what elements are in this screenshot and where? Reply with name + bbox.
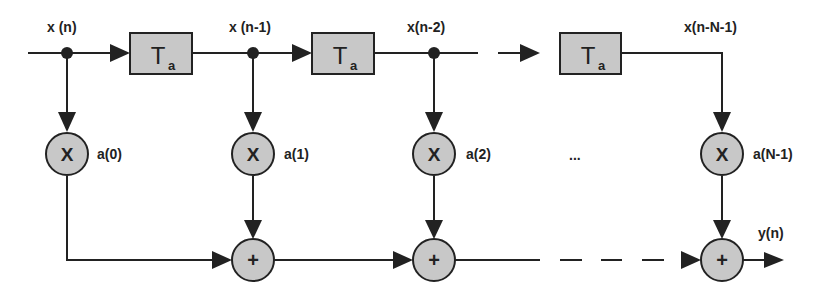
coefficient-label: a(2) <box>466 146 491 162</box>
arrow-icon <box>393 251 413 269</box>
arrow-icon <box>520 44 540 62</box>
svg-text:+: + <box>716 249 728 271</box>
svg-text:a: a <box>350 58 358 73</box>
svg-text:X: X <box>247 144 260 165</box>
svg-text:X: X <box>716 144 729 165</box>
svg-text:a: a <box>598 58 606 73</box>
arrow-icon <box>713 220 731 239</box>
multiplier-node: X <box>413 133 455 175</box>
arrow-icon <box>681 251 701 269</box>
arrow-icon <box>110 44 130 62</box>
arrow-icon <box>244 220 262 239</box>
tap-label: x(n-N-1) <box>684 19 737 35</box>
svg-text:T: T <box>151 42 166 69</box>
delay-block: T a <box>312 33 374 74</box>
multiplier-node: X <box>46 133 88 175</box>
svg-text:+: + <box>247 249 259 271</box>
arrow-icon <box>425 112 443 132</box>
ellipsis: ... <box>569 147 581 163</box>
junction-dot <box>247 47 259 59</box>
signal-line <box>621 53 722 118</box>
svg-text:a: a <box>168 58 176 73</box>
multiplier-node: X <box>701 133 743 175</box>
arrow-icon <box>292 44 312 62</box>
adder-node: + <box>232 239 274 281</box>
arrow-icon <box>764 252 784 268</box>
tap-label: x(n-2) <box>407 19 445 35</box>
multiplier-node: X <box>232 133 274 175</box>
delay-block: T a <box>560 33 621 74</box>
delay-block: T a <box>130 33 192 74</box>
coefficient-label: a(N-1) <box>753 146 793 162</box>
fir-filter-diagram: T a T a T a X X X X + + + x (n) x <box>0 0 828 298</box>
output-label: y(n) <box>758 225 784 241</box>
adder-node: + <box>701 239 743 281</box>
junction-dot <box>428 47 440 59</box>
arrow-icon <box>244 112 262 132</box>
arrow-icon <box>713 112 731 132</box>
arrow-icon <box>58 112 76 132</box>
input-label: x (n) <box>47 19 77 35</box>
product-line <box>67 176 220 260</box>
svg-text:T: T <box>581 42 596 69</box>
coefficient-label: a(1) <box>284 146 309 162</box>
arrow-icon <box>425 220 443 239</box>
svg-text:+: + <box>428 249 440 271</box>
svg-text:X: X <box>61 144 74 165</box>
arrow-icon <box>212 251 232 269</box>
adder-node: + <box>413 239 455 281</box>
tap-label: x (n-1) <box>229 19 271 35</box>
coefficient-label: a(0) <box>97 146 122 162</box>
svg-text:X: X <box>428 144 441 165</box>
svg-text:T: T <box>333 42 348 69</box>
junction-dot <box>61 47 73 59</box>
